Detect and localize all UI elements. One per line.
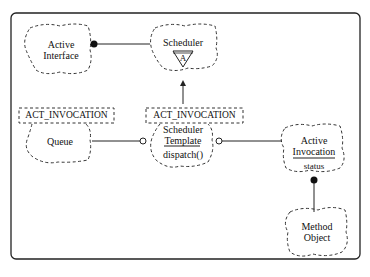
has-filled-circle-icon: [91, 41, 98, 48]
queue-template-param: ACT_INVOCATION: [20, 110, 113, 121]
has-filled-circle-icon: [311, 177, 318, 184]
status-attribute: status: [295, 161, 333, 172]
dispatch-operation: dispatch(): [160, 149, 206, 160]
abstract-adornment-label: A: [177, 53, 189, 64]
method-object-label: Method Object: [294, 221, 340, 243]
scheduler-template-label: Scheduler Template: [160, 124, 206, 146]
active-interface-label: Active Interface: [38, 39, 84, 61]
scheduler-template-param: ACT_INVOCATION: [147, 110, 242, 121]
inherit-arrow-icon: [180, 80, 186, 86]
uses-open-circle-icon: [216, 138, 222, 144]
queue-label: Queue: [40, 136, 80, 147]
scheduler-label: Scheduler: [158, 37, 208, 48]
active-invocation-label: Active Invocation: [290, 135, 338, 157]
uses-open-circle-icon: [140, 138, 146, 144]
